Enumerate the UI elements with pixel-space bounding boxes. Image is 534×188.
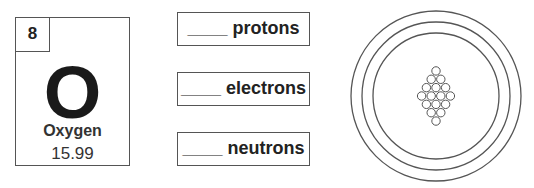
nucleon-particle: [446, 92, 454, 100]
element-name: Oxygen: [16, 122, 129, 140]
electrons-label-box[interactable]: ____ electrons: [177, 72, 310, 106]
protons-text: protons: [233, 18, 300, 38]
electron-shell-inner: [373, 33, 499, 159]
neutrons-label-box[interactable]: ____ neutrons: [177, 132, 310, 166]
nucleon-particle: [432, 117, 440, 125]
protons-label-box[interactable]: ____ protons: [177, 12, 310, 46]
nucleon-particle: [441, 83, 449, 91]
nucleon-particle: [437, 109, 445, 117]
electron-shell-outer: [351, 11, 521, 181]
nucleon-particle: [422, 100, 430, 108]
atomic-number: 8: [16, 18, 50, 52]
nucleon-particle: [427, 92, 435, 100]
nucleon-particle: [427, 75, 435, 83]
nucleon-particle: [437, 92, 445, 100]
nucleon-particle: [432, 67, 440, 75]
nucleon-particle: [437, 75, 445, 83]
nucleon-particle: [417, 92, 425, 100]
electron-shell-middle: [362, 22, 510, 170]
nucleus: [417, 67, 454, 126]
nucleon-particle: [441, 100, 449, 108]
atom-diagram: [350, 8, 526, 184]
element-symbol: O: [16, 58, 129, 128]
nucleon-particle: [422, 83, 430, 91]
protons-blank: ____: [187, 18, 227, 38]
electrons-blank: ____: [181, 78, 221, 98]
nucleon-particle: [432, 83, 440, 91]
electrons-text: electrons: [226, 78, 306, 98]
atomic-mass: 15.99: [16, 144, 129, 164]
nucleon-particle: [427, 109, 435, 117]
neutrons-text: neutrons: [228, 138, 305, 158]
nucleon-particle: [432, 100, 440, 108]
neutrons-blank: ____: [182, 138, 222, 158]
element-card: 8 O Oxygen 15.99: [15, 17, 130, 166]
